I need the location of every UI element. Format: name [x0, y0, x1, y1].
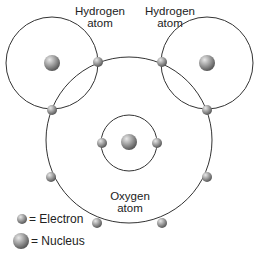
- oxygen-nucleus: [121, 134, 137, 150]
- electron: [46, 172, 56, 182]
- electron: [152, 138, 162, 148]
- label-line: Hydrogen: [70, 5, 130, 17]
- electron: [92, 218, 102, 228]
- legend-nucleus-icon: [13, 233, 29, 249]
- label-line: Oxygen: [100, 190, 160, 202]
- legend-electron-label: = Electron: [29, 212, 83, 226]
- oxygen-label: Oxygen atom: [100, 190, 160, 214]
- electron: [93, 57, 103, 67]
- electron: [157, 57, 167, 67]
- hydrogen-left-nucleus: [44, 55, 60, 71]
- electron: [157, 218, 167, 228]
- electron: [47, 105, 57, 115]
- hydrogen-right-nucleus: [199, 55, 215, 71]
- legend-electron-icon: [17, 214, 27, 224]
- label-line: atom: [70, 17, 130, 29]
- electron: [202, 172, 212, 182]
- electron: [202, 105, 212, 115]
- hydrogen-left-label: Hydrogen atom: [70, 5, 130, 29]
- hydrogen-right-label: Hydrogen atom: [140, 5, 200, 29]
- label-line: atom: [100, 202, 160, 214]
- label-line: atom: [140, 17, 200, 29]
- label-line: Hydrogen: [140, 5, 200, 17]
- electron: [97, 138, 107, 148]
- legend-nucleus-label: = Nucleus: [31, 234, 85, 248]
